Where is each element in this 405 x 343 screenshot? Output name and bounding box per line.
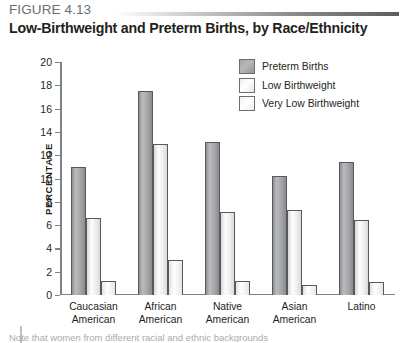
y-axis-tick-label: 20 (40, 56, 52, 68)
x-axis-group-label: NativeAmerican (206, 301, 250, 326)
chart-legend: Preterm BirthsLow BirthweightVery Low Bi… (239, 59, 359, 115)
bar (86, 218, 101, 295)
bar (168, 260, 183, 295)
bar (302, 285, 317, 295)
legend-label: Very Low Birthweight (262, 98, 359, 109)
bar (71, 167, 86, 295)
bar (339, 162, 354, 295)
y-axis-tick-label: 16 (40, 103, 52, 115)
bar (369, 282, 384, 295)
legend-label: Low Birthweight (262, 80, 335, 91)
y-axis-tick-label: 0 (46, 289, 52, 301)
header-rule (115, 12, 399, 16)
bar (220, 212, 235, 295)
x-axis-group-label: Latino (347, 301, 375, 314)
y-axis-tick-label: 6 (46, 219, 52, 231)
figure-container: FIGURE 4.13 Low-Birthweight and Preterm … (0, 0, 405, 343)
y-axis-tick (55, 295, 60, 296)
bar (235, 281, 250, 295)
y-axis-tick-label: 10 (40, 173, 52, 185)
y-axis-tick-label: 4 (46, 242, 52, 254)
bar (205, 142, 220, 295)
y-axis-tick-label: 8 (46, 196, 52, 208)
bar-group: CaucasianAmerican (60, 62, 127, 295)
y-axis-tick-label: 14 (40, 126, 52, 138)
legend-item: Very Low Birthweight (239, 96, 359, 111)
y-axis-tick-label: 2 (46, 266, 52, 278)
legend-swatch (239, 96, 255, 111)
bar (153, 144, 168, 295)
x-axis-group-label: AsianAmerican (273, 301, 317, 326)
bar (354, 220, 369, 295)
figure-title: Low-Birthweight and Preterm Births, by R… (9, 20, 367, 36)
x-axis-group-label: AfricanAmerican (139, 301, 183, 326)
y-axis-tick-label: 12 (40, 149, 52, 161)
legend-swatch (239, 59, 255, 74)
legend-item: Preterm Births (239, 59, 359, 74)
bar (101, 281, 116, 295)
bar-group: AfricanAmerican (127, 62, 194, 295)
bar (138, 91, 153, 295)
bar (287, 210, 302, 295)
x-axis-group-label: CaucasianAmerican (69, 301, 118, 326)
y-axis-tick-label: 18 (40, 79, 52, 91)
figure-caption: Note that women from different racial an… (9, 332, 399, 342)
bar (272, 176, 287, 295)
legend-item: Low Birthweight (239, 78, 359, 93)
figure-number: FIGURE 4.13 (9, 2, 91, 17)
legend-swatch (239, 78, 255, 93)
legend-label: Preterm Births (262, 61, 328, 72)
